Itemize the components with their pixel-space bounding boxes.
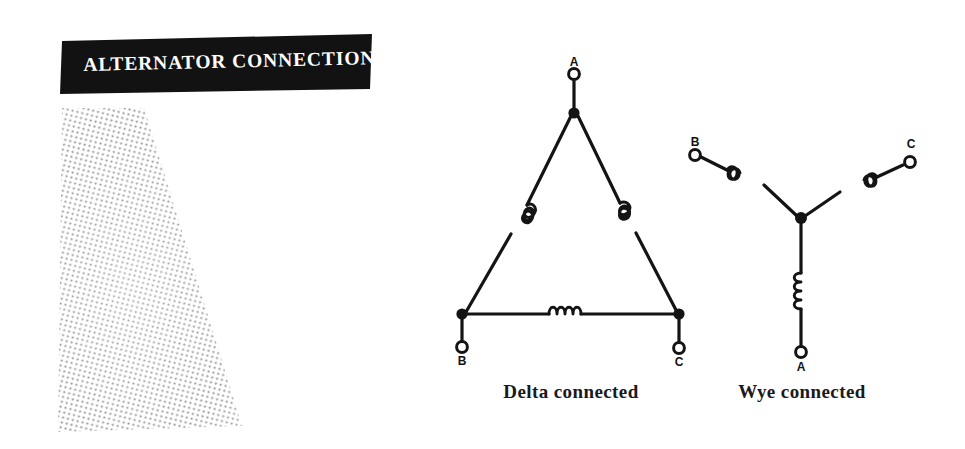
delta-junction-b [456, 308, 467, 319]
delta-wire-ac-lower [636, 233, 677, 312]
delta-junction-a [568, 107, 579, 118]
wye-wire-c-outer [877, 165, 903, 177]
figure-page: ALTERNATOR CONNECTIONS [0, 0, 965, 449]
wye-neutral-junction [795, 212, 807, 224]
delta-terminal-b [457, 342, 468, 353]
wye-wire-b-outer [701, 157, 727, 170]
wye-terminal-c [905, 157, 916, 168]
delta-coil-ab [522, 204, 535, 223]
wye-terminal-label-b: B [685, 135, 705, 149]
delta-coil-ac [619, 202, 629, 219]
delta-terminal-c [674, 343, 685, 354]
delta-wire-ab-lower [466, 234, 511, 312]
delta-wire-ac-upper [578, 116, 620, 203]
wye-wire-b-inner [764, 185, 797, 216]
delta-wire-ab-upper [527, 116, 571, 205]
delta-terminal-a [569, 69, 580, 80]
wye-coil-a [794, 273, 801, 309]
wye-coil-c [864, 174, 877, 187]
wye-wire-c-inner [805, 192, 840, 216]
delta-terminal-label-a: A [564, 55, 584, 69]
delta-junction-c [673, 308, 684, 319]
caption-wye-connected: Wye connected [688, 381, 916, 403]
wye-terminal-a [796, 347, 807, 358]
wye-terminal-b [690, 150, 701, 161]
wye-terminal-label-c: C [901, 137, 921, 151]
delta-coil-bc [549, 307, 581, 314]
caption-delta-connected: Delta connected [440, 381, 702, 403]
wye-coil-b [727, 167, 740, 180]
delta-terminal-label-c: C [669, 355, 689, 369]
wye-diagram [690, 150, 916, 358]
wye-terminal-label-a: A [791, 360, 811, 374]
delta-terminal-label-b: B [452, 354, 472, 368]
delta-diagram [456, 69, 684, 354]
